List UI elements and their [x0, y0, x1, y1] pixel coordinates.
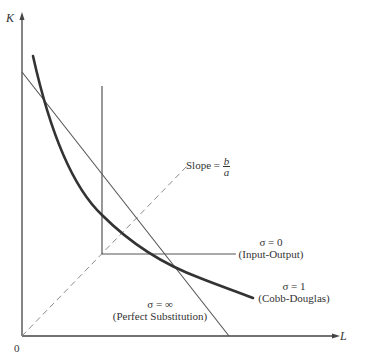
l-axis-label: L [340, 330, 347, 342]
k-axis-label: K [6, 12, 14, 24]
perfect-substitution-isoquant [22, 72, 229, 336]
l-axis-arrow-icon [332, 334, 340, 339]
cobb-douglas-label: σ = 1 (Cobb-Douglas) [255, 280, 333, 304]
input-output-sigma: σ = 0 [236, 236, 306, 248]
perfect-substitution-label: σ = ∞ (Perfect Substitution) [100, 298, 220, 322]
slope-fraction: ba [223, 156, 231, 177]
input-output-name: (Input-Output) [236, 248, 306, 260]
k-axis-arrow-icon [20, 12, 25, 20]
cobb-douglas-sigma: σ = 1 [255, 280, 333, 292]
cobb-douglas-isoquant [33, 56, 253, 298]
perfect-substitution-name: (Perfect Substitution) [100, 310, 220, 322]
slope-annotation: Slope = ba [186, 156, 230, 177]
input-output-label: σ = 0 (Input-Output) [236, 236, 306, 260]
perfect-substitution-sigma: σ = ∞ [100, 298, 220, 310]
slope-text: Slope = [186, 159, 223, 171]
slope-denominator: a [223, 167, 231, 177]
origin-label: 0 [14, 342, 20, 354]
cobb-douglas-name: (Cobb-Douglas) [255, 292, 333, 304]
